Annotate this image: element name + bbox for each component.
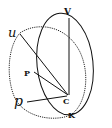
label-V: V <box>63 7 72 17</box>
label-u: u <box>8 25 16 40</box>
label-C: C <box>63 96 69 106</box>
line-pC <box>27 96 67 102</box>
sphere-diagram: V u P C p K <box>0 0 112 128</box>
label-p: p <box>14 93 23 109</box>
line-PC <box>34 72 68 95</box>
label-P: P <box>24 68 30 78</box>
label-K: K <box>68 110 76 120</box>
line-uC <box>20 34 68 95</box>
